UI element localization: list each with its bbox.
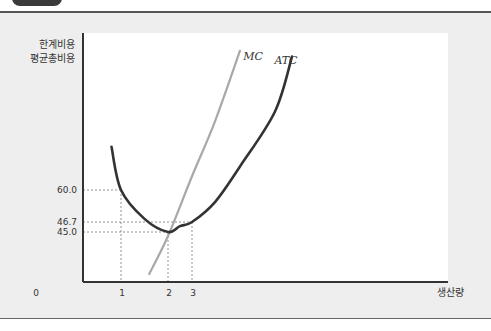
y-axis-label-line1: 한계비용 [39, 39, 75, 50]
x-tick-1: 1 [119, 288, 125, 298]
mc-curve-label: MC [242, 50, 263, 63]
x-tick-2: 2 [166, 288, 172, 298]
x-axis-label: 생산량 [437, 287, 464, 298]
y-tick-45: 45.0 [57, 227, 77, 237]
cost-curve-chart: 한계비용 평균총비용 60.0 46.7 45.0 0 1 2 3 생산량 MC… [0, 0, 491, 331]
y-tick-60: 60.0 [57, 185, 77, 195]
x-tick-3: 3 [190, 288, 196, 298]
plot-area [83, 33, 448, 282]
atc-curve-label: ATC [273, 54, 298, 67]
y-tick-46-7: 46.7 [57, 217, 77, 227]
y-axis-label-line2: 평균총비용 [30, 53, 75, 64]
origin-label: 0 [33, 288, 39, 298]
